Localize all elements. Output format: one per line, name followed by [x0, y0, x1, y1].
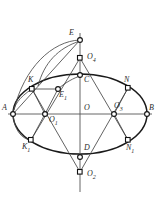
point-label-N1: N1	[126, 144, 134, 154]
point-label-E1: E1	[59, 91, 67, 101]
node-marker-K1	[29, 138, 34, 143]
point-label-O3: O3	[114, 102, 123, 112]
chord-o3-to-n1	[114, 114, 128, 140]
node-marker-O2	[78, 170, 83, 175]
chord-o4-to-n1	[80, 58, 128, 140]
chord-a-to-e	[13, 40, 80, 114]
chord-o4-to-k1	[31, 58, 80, 140]
chord-o1-to-k	[32, 89, 45, 114]
node-marker-C	[78, 73, 83, 78]
point-label-D: D	[84, 144, 90, 152]
node-marker-N	[126, 86, 131, 91]
point-label-E: E	[69, 29, 74, 37]
node-marker-E	[78, 38, 83, 43]
point-label-K: K	[28, 76, 33, 84]
chord-o1-to-k1	[31, 114, 45, 140]
node-marker-A	[11, 112, 16, 117]
node-marker-O1	[43, 112, 48, 117]
point-label-K1: K1	[22, 143, 30, 153]
point-label-C: C	[84, 76, 89, 84]
point-label-O2: O2	[87, 170, 96, 180]
point-label-O4: O4	[87, 53, 96, 63]
figure-canvas	[0, 0, 160, 199]
node-marker-K	[30, 87, 35, 92]
chord-o2-to-k	[32, 89, 80, 172]
node-marker-N1	[126, 138, 131, 143]
node-marker-D	[78, 155, 83, 160]
ellipse-construction-figure: A B C D E E1 K K1 N N1 O O1 O2 O3 O4	[0, 0, 160, 199]
node-marker-B	[145, 112, 150, 117]
node-marker-O3	[112, 112, 117, 117]
point-label-B: B	[149, 104, 154, 112]
arc-a-k1-outer	[13, 114, 31, 140]
point-label-N: N	[124, 76, 129, 84]
chord-o1-to-e1	[45, 89, 58, 114]
point-label-O: O	[84, 104, 90, 112]
node-marker-O4	[78, 56, 83, 61]
point-label-A: A	[2, 104, 7, 112]
point-label-O1: O1	[49, 116, 58, 126]
arc-e1-top	[58, 76, 80, 89]
